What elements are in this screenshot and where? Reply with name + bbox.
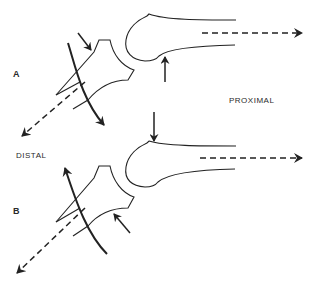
proximal-label: PROXIMAL — [229, 96, 274, 105]
contact-arrow-b-distal — [114, 214, 130, 233]
panel-label-a: A — [13, 69, 20, 79]
proximal-bone-a — [126, 16, 235, 61]
panel-label-b: B — [13, 206, 20, 216]
rotation-arrow-a — [68, 43, 104, 125]
distal-label: DISTAL — [16, 151, 46, 160]
proximal-bone-b — [126, 143, 235, 187]
distal-axis-b — [17, 208, 85, 273]
panel-a — [22, 14, 302, 136]
rotation-arrow-b — [65, 168, 107, 254]
panel-b — [17, 112, 302, 273]
distal-bone-a — [56, 40, 134, 100]
diagram-svg — [0, 0, 315, 284]
distal-axis-a — [22, 82, 85, 136]
joint-mechanics-diagram: A B PROXIMAL DISTAL — [0, 0, 315, 284]
contact-arrow-a-distal — [78, 33, 91, 50]
